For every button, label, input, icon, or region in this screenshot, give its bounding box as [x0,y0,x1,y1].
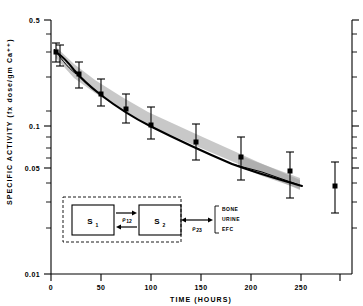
marker-0 [54,50,59,55]
x-tick-label-3: 150 [195,284,208,291]
x-tick-label-0: 0 [49,284,53,291]
marker-4 [124,107,129,112]
inset-arrowhead-forward [132,211,137,216]
marker-8 [288,169,293,174]
y-tick-label-1: 0.1 [29,123,40,130]
y-axis-title: SPECIFIC ACTIVITY (fx dose/gm Ca⁺⁺) [6,38,14,205]
inset-rate-23-sub: 23 [196,227,202,233]
x-tick-label-4: 200 [245,284,258,291]
x-tick-label-5: 250 [295,284,308,291]
x-axis: 0 50 100 150 200 250 TIME (HOURS) [49,274,352,304]
marker-5 [149,123,154,128]
y-axis: 0.5 0.1 0.05 0.01 SPECIFIC ACTIVITY (fx … [6,17,51,278]
inset-box-s2 [139,205,181,235]
inset-output-bone: BONE [222,206,239,212]
x-axis-title: TIME (HOURS) [170,296,232,304]
x-tick-label-2: 100 [145,284,158,291]
inset-label-s2-sub: 2 [163,222,166,228]
y-tick-label-0: 0.5 [29,17,40,24]
inset-output-urine: URINE [222,216,240,222]
inset-rate-12-sub: 12 [126,218,132,224]
x-tick-label-1: 50 [97,284,106,291]
y-axis-right [352,20,359,274]
chart-canvas: 0.5 0.1 0.05 0.01 SPECIFIC ACTIVITY (fx … [0,0,363,306]
inset-label-s1-sub: 1 [96,222,99,228]
marker-2 [77,72,82,77]
inset-arrowhead-reverse [116,225,121,230]
marker-7 [239,155,244,160]
inset-brace [215,206,219,233]
inset-compartment-model: S 1 S 2 ρ 12 ρ 23 BONE URINE EFC [63,197,240,242]
y-tick-label-3: 0.01 [25,271,40,278]
marker-6 [194,140,199,145]
inset-arrowhead-outflow-left [181,218,186,223]
marker-9 [333,184,338,189]
inset-output-efc: EFC [222,226,234,232]
inset-label-s1: S [87,217,93,226]
inset-box-s1 [72,205,114,235]
figure-container: 0.5 0.1 0.05 0.01 SPECIFIC ACTIVITY (fx … [0,0,363,306]
inset-arrowhead-outflow [208,218,213,223]
confidence-band [56,47,300,190]
y-tick-label-2: 0.05 [25,165,40,172]
marker-3 [99,92,104,97]
inset-label-s2: S [154,217,160,226]
